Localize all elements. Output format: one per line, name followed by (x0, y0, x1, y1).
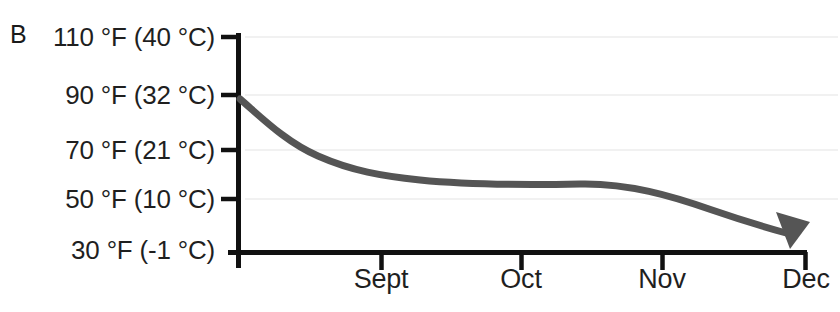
plot-area (0, 0, 840, 312)
gridlines (245, 37, 838, 199)
temperature-trend-curve (240, 99, 786, 233)
chart-figure: B 110 °F (40 °C) 90 °F (32 °C) 70 °F (21… (0, 0, 840, 312)
